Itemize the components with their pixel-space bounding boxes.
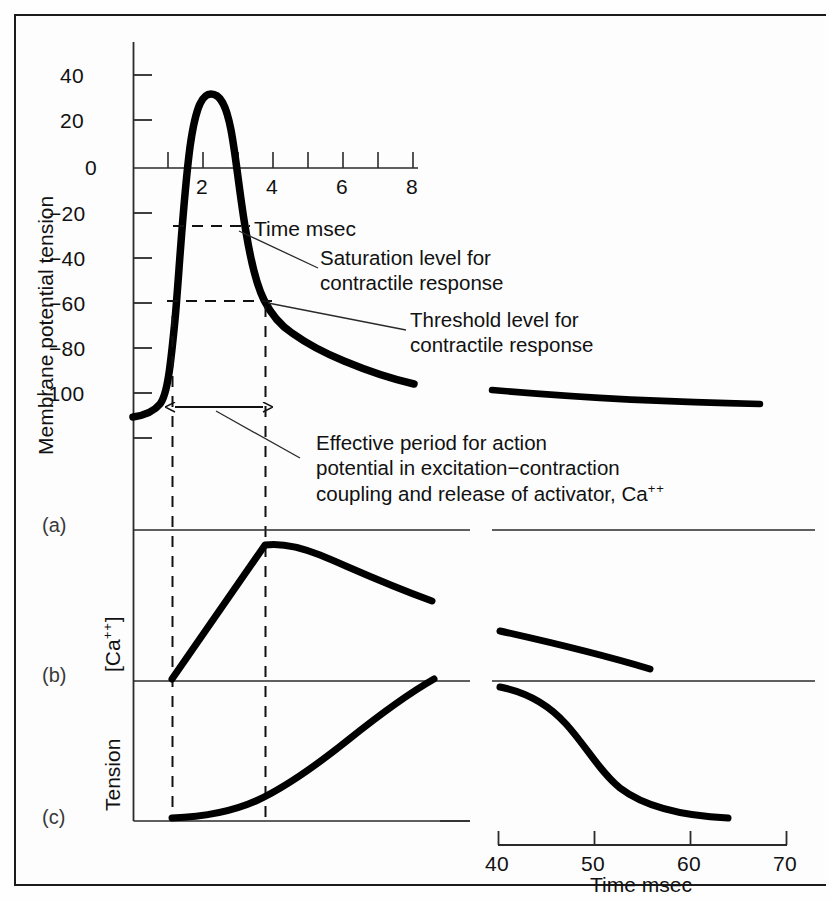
- x-tick-label-2: 2: [196, 174, 208, 200]
- y-tick-label-20: 20: [60, 108, 84, 134]
- effective-period-annotation-line3-text: coupling and release of activator, Ca: [316, 482, 648, 505]
- panel-a-y-axis-title: Membrane potential tension: [33, 196, 59, 455]
- y-tick-label-40: 40: [60, 63, 84, 89]
- curve-calcium-left: [172, 544, 432, 679]
- effective-period-annotation: Effective period for action potential in…: [316, 430, 665, 506]
- curve-action-potential-right: [492, 390, 760, 404]
- panel-letter-b: (b): [42, 663, 66, 688]
- curve-tension-right: [500, 687, 728, 818]
- panel-c-y-axis-title: Tension: [100, 739, 126, 811]
- saturation-annotation-line1: Saturation level for: [320, 245, 503, 270]
- x-tick-label-8: 8: [406, 174, 418, 200]
- x-tick-label-40: 40: [485, 851, 509, 877]
- panel-letter-c: (c): [42, 805, 65, 830]
- panel-c-x-axis-title: Time msec: [590, 872, 692, 898]
- panel-b-y-axis-title-sup: ++: [100, 622, 115, 639]
- x-tick-label-4: 4: [266, 174, 278, 200]
- x-tick-label-6: 6: [336, 174, 348, 200]
- threshold-annotation-line1: Threshold level for: [410, 307, 593, 332]
- saturation-annotation: Saturation level for contractile respons…: [320, 245, 503, 296]
- panel-letter-a: (a): [42, 513, 66, 538]
- effective-period-annotation-line2: potential in excitation−contraction: [316, 455, 665, 480]
- panel-b-y-axis-title-pre: [Ca: [101, 639, 124, 672]
- y-tick-label-0: 0: [85, 155, 97, 181]
- threshold-annotation-line2: contractile response: [410, 332, 593, 357]
- x-tick-label-70: 70: [773, 851, 797, 877]
- curve-calcium-right: [500, 631, 650, 669]
- effective-period-annotation-line3: coupling and release of activator, Ca++: [316, 481, 665, 506]
- saturation-annotation-line2: contractile response: [320, 270, 503, 295]
- effective-period-annotation-line1: Effective period for action: [316, 430, 665, 455]
- threshold-annotation: Threshold level for contractile response: [410, 307, 593, 358]
- panel-b-y-axis-title: [Ca++]: [100, 616, 126, 672]
- curve-tension-left: [172, 679, 434, 818]
- calcium-charge-superscript: ++: [648, 481, 665, 496]
- panel-b-axes: [134, 530, 816, 681]
- effective-period-leader-line: [216, 411, 300, 458]
- panel-b-y-axis-title-post: ]: [101, 616, 124, 622]
- panel-c-axes: [134, 681, 788, 845]
- panel-a-x-axis-title: Time msec: [254, 216, 356, 242]
- figure-root: 40 20 0 −20 −40 −60 −80 −100 2 4 6 8 Tim…: [0, 0, 830, 901]
